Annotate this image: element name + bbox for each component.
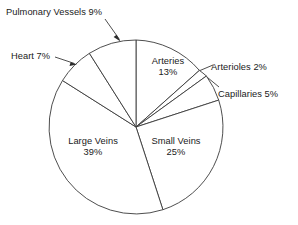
label-arterioles-text: Arterioles 2% — [211, 62, 267, 72]
label-pulmonary-vessels: Pulmonary Vessels 9% — [6, 7, 102, 18]
leader-pulmonary-vessels — [105, 19, 121, 42]
label-capillaries-text: Capillaries 5% — [218, 89, 278, 99]
label-small-veins-value: 25% — [143, 147, 209, 158]
label-arterioles: Arterioles 2% — [211, 62, 267, 73]
pie-chart-graphic — [0, 0, 298, 225]
label-large-veins-value: 39% — [60, 147, 126, 158]
label-large-veins-name: Large Veins — [60, 136, 126, 147]
label-heart: Heart 7% — [11, 51, 50, 62]
label-pulmonary-vessels-text: Pulmonary Vessels 9% — [6, 7, 102, 17]
label-small-veins: Small Veins 25% — [143, 136, 209, 158]
leader-heart — [55, 57, 77, 66]
label-small-veins-name: Small Veins — [143, 136, 209, 147]
label-capillaries: Capillaries 5% — [218, 89, 278, 100]
pie-chart: Pulmonary Vessels 9% Heart 7% Arteries 1… — [0, 0, 298, 225]
label-arteries-value: 13% — [140, 67, 196, 78]
label-arteries: Arteries 13% — [140, 56, 196, 78]
label-large-veins: Large Veins 39% — [60, 136, 126, 158]
label-heart-text: Heart 7% — [11, 51, 50, 61]
label-arteries-name: Arteries — [140, 56, 196, 67]
pie-slices — [49, 40, 223, 214]
